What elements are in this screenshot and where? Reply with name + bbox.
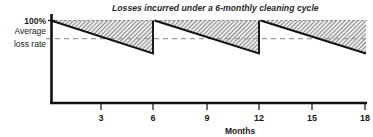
chart-container: Losses incurred under a 6-monthly cleani… xyxy=(0,0,373,137)
x-tick-label-12: 12 xyxy=(254,113,264,123)
x-tick-label-18: 18 xyxy=(360,113,370,123)
x-axis-label: Months xyxy=(225,126,255,136)
x-tick-label-15: 15 xyxy=(307,113,317,123)
x-tick-label-6: 6 xyxy=(150,113,155,123)
y-axis-label-average: Average xyxy=(14,26,46,36)
x-tick-label-9: 9 xyxy=(204,113,209,123)
losses-sawtooth-chart: Losses incurred under a 6-monthly cleani… xyxy=(0,0,373,137)
y-axis-label-loss-rate: loss rate xyxy=(14,39,46,49)
y-axis-label-100-percent: 100% xyxy=(24,16,46,26)
chart-title: Losses incurred under a 6-monthly cleani… xyxy=(112,3,319,13)
x-tick-label-3: 3 xyxy=(98,113,103,123)
